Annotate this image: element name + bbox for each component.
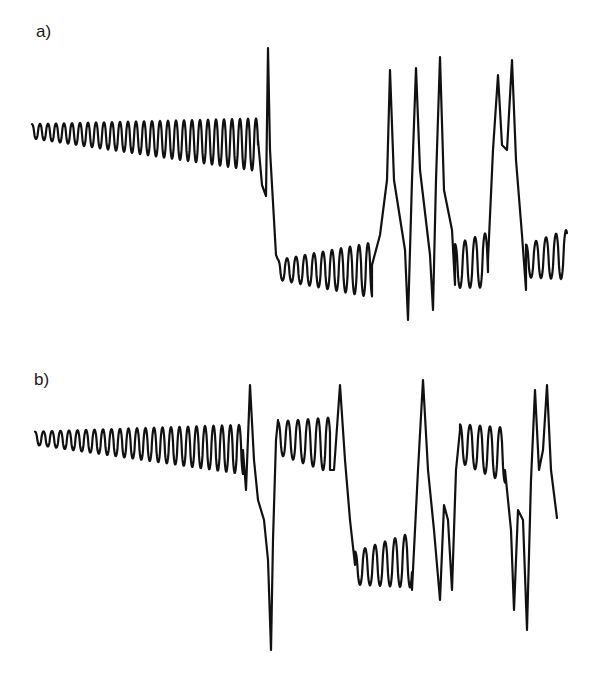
figure-canvas (0, 0, 596, 680)
trace-b-line (35, 380, 557, 650)
trace-a-line (32, 48, 567, 320)
